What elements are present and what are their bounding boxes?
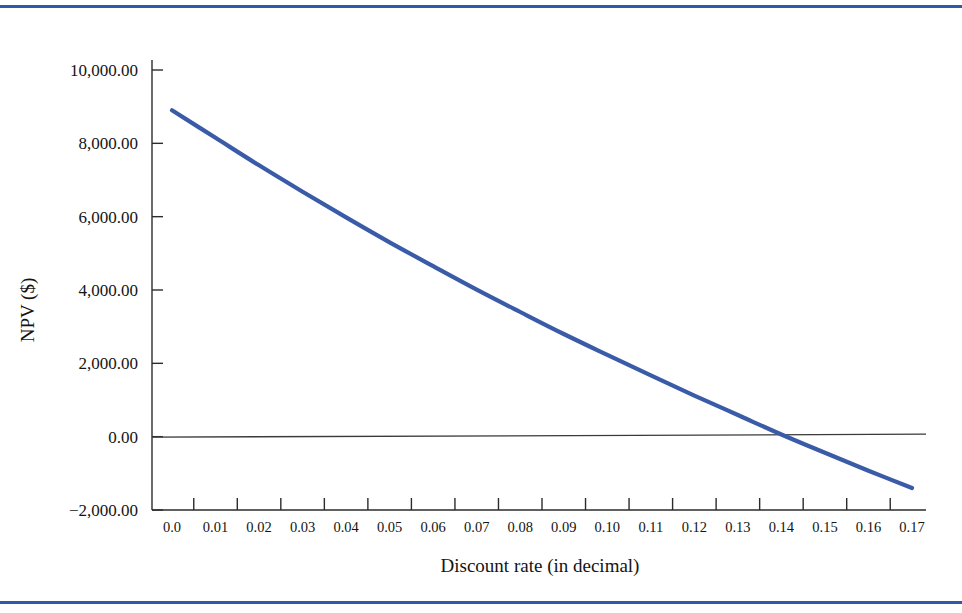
x-axis-tick-label: 0.01 — [203, 519, 228, 535]
x-axis-tick-label: 0.16 — [856, 519, 881, 535]
x-axis-tick-label: 0.14 — [769, 519, 795, 535]
y-axis-tick-label: 2,000.00 — [79, 354, 139, 373]
zero-reference-line — [152, 434, 926, 437]
x-axis-tick-label: 0.07 — [464, 519, 489, 535]
x-axis-tick-label: 0.17 — [899, 519, 924, 535]
x-axis-tick-label: 0.0 — [163, 519, 181, 535]
npv-profile-chart: 10,000.008,000.006,000.004,000.002,000.0… — [0, 10, 962, 598]
x-axis-tick-label: 0.12 — [682, 519, 707, 535]
npv-profile-figure: 10,000.008,000.006,000.004,000.002,000.0… — [0, 10, 962, 598]
y-axis-tick-label: 10,000.00 — [70, 61, 138, 80]
x-axis-tick-label: 0.11 — [638, 519, 663, 535]
y-axis-tick-label: 0.00 — [108, 428, 138, 447]
y-axis-tick-label: 4,000.00 — [79, 281, 139, 300]
x-axis-ticks — [194, 498, 890, 510]
npv-curve-line — [172, 110, 912, 488]
x-axis-tick-label: 0.06 — [420, 519, 445, 535]
y-axis-tick-labels: 10,000.008,000.006,000.004,000.002,000.0… — [69, 61, 138, 520]
x-axis-tick-label: 0.13 — [725, 519, 750, 535]
x-axis-tick-label: 0.09 — [551, 519, 576, 535]
y-axis-title: NPV ($) — [17, 278, 39, 343]
x-axis-tick-label: 0.05 — [377, 519, 402, 535]
x-axis-tick-label: 0.15 — [812, 519, 837, 535]
x-axis-tick-label: 0.02 — [246, 519, 271, 535]
x-axis-tick-label: 0.10 — [595, 519, 620, 535]
x-axis-tick-label: 0.04 — [333, 519, 359, 535]
x-axis-tick-label: 0.03 — [290, 519, 315, 535]
y-axis-tick-label: 8,000.00 — [79, 134, 139, 153]
y-axis-tick-label: −2,000.00 — [69, 501, 138, 520]
x-axis-tick-labels: 0.00.010.020.030.040.050.060.070.080.090… — [163, 519, 925, 535]
x-axis-title: Discount rate (in decimal) — [441, 555, 640, 577]
x-axis-tick-label: 0.08 — [508, 519, 533, 535]
page-rule-bottom — [0, 601, 962, 604]
page-rule-top — [0, 5, 962, 8]
y-axis-ticks — [152, 70, 163, 510]
y-axis-tick-label: 6,000.00 — [79, 208, 139, 227]
